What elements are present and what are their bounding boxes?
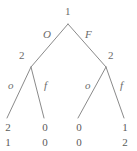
leaf-payoff-3-top: 0 [76, 120, 82, 135]
edge-label-O: O [43, 29, 51, 40]
leaf-payoff-2-bottom: 0 [42, 135, 48, 150]
edge-label-left-f: f [44, 80, 47, 91]
edge-label-left-o: o [8, 80, 14, 91]
node-label-left-player: 2 [19, 50, 25, 61]
leaf-payoff-1-top: 2 [5, 120, 11, 135]
game-tree-figure: 1 2 2 O F o f o f 2 1 0 0 0 0 1 2 [0, 0, 137, 151]
node-label-right-player: 2 [108, 50, 114, 61]
leaf-payoff-2-top: 0 [42, 120, 48, 135]
edge-label-right-o: o [85, 80, 91, 91]
node-label-root-player: 1 [65, 6, 71, 17]
edge-label-F: F [85, 29, 92, 40]
leaf-payoff-4: 1 2 [117, 120, 133, 150]
leaf-payoff-3: 0 0 [71, 120, 87, 150]
leaf-payoff-4-bottom: 2 [122, 135, 128, 150]
edge-right-to-leaf3 [78, 67, 106, 118]
leaf-payoff-3-bottom: 0 [76, 135, 82, 150]
edge-right-to-leaf4 [106, 67, 124, 118]
leaf-payoff-4-top: 1 [122, 120, 128, 135]
leaf-payoff-1-bottom: 1 [5, 135, 11, 150]
leaf-payoff-2: 0 0 [37, 120, 53, 150]
edge-left-to-leaf2 [31, 67, 44, 118]
edge-label-right-f: f [120, 80, 123, 91]
edge-left-to-leaf1 [7, 67, 31, 118]
leaf-payoff-1: 2 1 [0, 120, 16, 150]
